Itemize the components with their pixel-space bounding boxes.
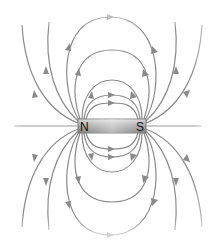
- arrow-icon: [108, 154, 115, 160]
- bar-magnet: N S: [78, 119, 146, 134]
- arrow-icon: [183, 154, 190, 162]
- arrow-icon: [108, 100, 115, 106]
- arrow-icon: [108, 92, 115, 98]
- arrow-icon: [65, 43, 71, 51]
- arrow-icon: [108, 146, 115, 152]
- arrow-icon: [75, 176, 81, 184]
- arrow-icon: [32, 90, 38, 98]
- arrow-icon: [65, 201, 71, 209]
- arrow-icon: [75, 68, 81, 76]
- arrow-icon: [43, 178, 49, 186]
- arrow-icon: [151, 46, 158, 54]
- magnet-field-diagram: N S: [0, 0, 215, 246]
- south-pole-label: S: [136, 120, 144, 134]
- arrow-icon: [151, 198, 158, 206]
- north-pole-label: N: [80, 120, 89, 134]
- arrow-icon: [32, 154, 38, 162]
- arrow-icon: [43, 66, 49, 74]
- arrow-icon: [183, 90, 190, 98]
